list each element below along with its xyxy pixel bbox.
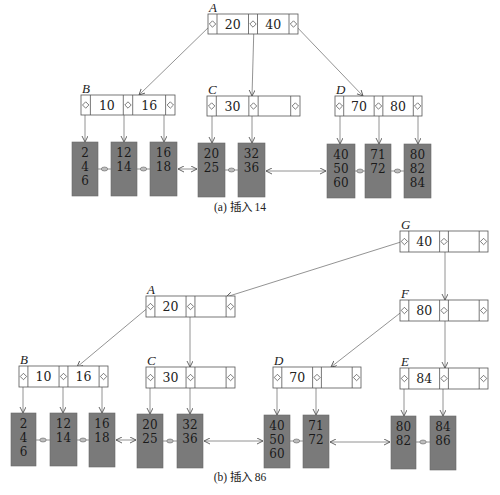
node-E: 84E (400, 354, 488, 389)
node-label: C (208, 82, 217, 97)
leaf-node: 7172 (365, 144, 391, 198)
tree-edges (23, 241, 445, 416)
sibling-link-dot-icon (140, 167, 146, 171)
leaf-value: 2 (20, 417, 28, 431)
node-key: 70 (289, 370, 305, 385)
sibling-link-dot-icon (394, 169, 400, 173)
leaf-level: 2461214161820253236405060717280828486 (11, 413, 456, 470)
node-label: A (146, 282, 155, 297)
leaf-value: 4 (81, 160, 89, 174)
leaf-value: 25 (204, 161, 219, 175)
node-key: 20 (163, 299, 179, 314)
node-label: D (273, 353, 284, 368)
node-B: 1016B (81, 81, 175, 115)
node-key: 20 (225, 17, 241, 32)
leaf-value: 20 (204, 147, 219, 161)
node-G: 40G (400, 217, 488, 252)
leaf-value: 72 (370, 162, 385, 176)
leaf-value: 32 (182, 418, 197, 432)
node-key: 84 (416, 371, 432, 386)
leaf-value: 71 (370, 148, 385, 162)
node-D: 7080D (335, 82, 422, 116)
sibling-link-dot-icon (80, 438, 86, 442)
node-C: 30C (207, 82, 300, 116)
leaf-value: 82 (410, 162, 425, 176)
leaf-value: 18 (156, 160, 171, 174)
node-label: B (20, 352, 28, 367)
node-F: 80F (400, 286, 488, 321)
node-A: 2040A (208, 0, 298, 34)
leaf-node: 1618 (89, 413, 115, 467)
leaf-node: 405060 (327, 144, 355, 198)
leaf-value: 2 (81, 146, 89, 160)
leaf-node: 8082 (391, 416, 416, 469)
node-B: 1016B (19, 352, 108, 387)
child-pointer-arrow (226, 241, 404, 297)
node-key: 10 (99, 98, 115, 113)
child-pointer-arrow (294, 24, 363, 96)
leaf-value: 82 (396, 434, 411, 448)
node-label: G (401, 217, 411, 232)
tree-edges (85, 24, 418, 144)
leaf-node: 8486 (430, 416, 456, 470)
node-A: 20A (146, 282, 235, 317)
leaf-node: 1214 (50, 413, 77, 466)
leaf-value: 16 (94, 417, 109, 431)
part-a-insert-14: 2040A1016B30C7080D2461214161820253236405… (72, 0, 431, 214)
leaf-value: 14 (116, 160, 132, 174)
leaf-node: 405060 (264, 415, 290, 468)
node-key: 30 (163, 370, 179, 385)
child-pointer-arrow (252, 24, 254, 96)
leaf-value: 32 (244, 147, 259, 161)
node-key: 16 (141, 98, 157, 113)
leaf-node: 3236 (238, 143, 265, 197)
leaf-value: 84 (410, 176, 426, 190)
leaf-value: 36 (244, 161, 259, 175)
node-label: D (335, 82, 346, 97)
leaf-value: 4 (20, 431, 28, 445)
node-key: 10 (36, 369, 52, 384)
node-label: B (82, 81, 90, 96)
leaf-value: 40 (333, 148, 348, 162)
node-key: 70 (351, 99, 367, 114)
figure-caption: (b) 插入 86 (214, 470, 267, 484)
figure-caption: (a) 插入 14 (214, 200, 266, 214)
node-key: 80 (390, 99, 406, 114)
leaf-value: 16 (156, 146, 171, 160)
sibling-link-dot-icon (167, 439, 173, 443)
leaf-value: 36 (182, 432, 197, 446)
leaf-node: 808284 (404, 144, 431, 198)
leaf-value: 25 (142, 432, 157, 446)
leaf-value: 80 (410, 148, 425, 162)
node-key: 80 (416, 303, 432, 318)
sibling-link-dot-icon (101, 167, 107, 171)
leaf-node: 246 (72, 142, 98, 196)
leaf-value: 20 (142, 418, 157, 432)
leaf-node: 2025 (198, 143, 225, 197)
leaf-node: 1214 (111, 142, 137, 196)
sibling-link-dot-icon (228, 168, 234, 172)
node-key: 30 (225, 99, 241, 114)
sibling-link-dot-icon (420, 440, 426, 444)
node-key: 16 (76, 369, 92, 384)
leaf-value: 60 (333, 176, 348, 190)
node-label: F (400, 286, 410, 301)
leaf-value: 14 (56, 431, 72, 445)
part-b-insert-86: 40G20A80F1016B30C70D84E24612141618202532… (11, 217, 488, 484)
leaf-value: 86 (435, 434, 450, 448)
child-pointer-arrow (331, 310, 404, 367)
leaf-value: 80 (396, 420, 411, 434)
node-C: 30C (146, 353, 235, 388)
node-key: 40 (416, 234, 432, 249)
sibling-link-dot-icon (40, 438, 46, 442)
leaf-value: 50 (269, 433, 284, 447)
sibling-link-dot-icon (357, 169, 363, 173)
leaf-value: 71 (308, 419, 323, 433)
child-pointer-arrow (139, 24, 212, 95)
leaf-node: 1618 (150, 142, 177, 196)
leaf-level: 24612141618202532364050607172808284 (72, 142, 431, 198)
leaf-value: 18 (94, 431, 109, 445)
leaf-value: 84 (435, 420, 451, 434)
node-D: 70D (273, 353, 361, 388)
leaf-value: 6 (81, 174, 89, 188)
